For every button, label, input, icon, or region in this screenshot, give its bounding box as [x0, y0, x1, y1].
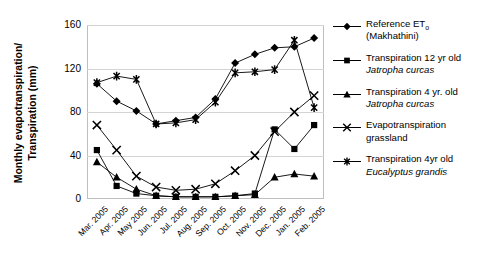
series-marker [290, 170, 298, 177]
series-marker [94, 147, 100, 153]
series-marker [93, 121, 101, 129]
legend-item[interactable]: Transpiration 12 yr oldJatropha curcas [332, 52, 498, 77]
y-axis-title-line1: Monthly evapotranspiration/ [11, 13, 25, 213]
series-marker [311, 103, 317, 112]
series-marker [132, 172, 140, 180]
legend-label-line1: Evapotranspiration [366, 119, 446, 131]
y-axis-title: Monthly evapotranspiration/ Transpiratio… [11, 13, 45, 213]
series-marker [114, 183, 120, 189]
y-axis-tick-label: 160 [41, 20, 81, 30]
legend-label-line1: Transpiration 12 yr old [366, 52, 461, 64]
series-marker [251, 151, 259, 159]
series-marker [291, 36, 297, 45]
series-marker [231, 167, 239, 175]
series-marker [251, 50, 259, 58]
legend-label: Transpiration 4 yr. oldJatropha curcas [366, 86, 458, 111]
y-axis-tick-label: 0 [41, 194, 81, 204]
chart-legend: Reference ETo(Makhathini)Transpiration 1… [332, 18, 498, 187]
legend-label-line2: Eucalyptus grandis [366, 166, 453, 178]
legend-label-line1: Reference ETo [366, 18, 429, 30]
plot-area [87, 25, 324, 199]
legend-item[interactable]: Transpiration 4yr oldEucalyptus grandis [332, 153, 498, 178]
series-marker [93, 158, 101, 165]
x-marker-icon [332, 120, 362, 133]
legend-label-line1: Transpiration 4 yr. old [366, 86, 458, 98]
series-marker [310, 34, 318, 42]
square-marker-icon [332, 53, 362, 66]
series-marker [132, 107, 140, 115]
series-marker [113, 146, 121, 154]
series-line [97, 40, 314, 124]
series-marker [291, 146, 297, 152]
legend-label: Evapotranspirationgrassland [366, 119, 446, 144]
legend-item[interactable]: Reference ETo(Makhathini) [332, 18, 498, 43]
legend-label-line2: grassland [366, 132, 446, 144]
legend-label: Reference ETo(Makhathini) [366, 18, 429, 43]
series-layer [87, 25, 324, 199]
legend-label-line2: Jatropha curcas [366, 64, 461, 76]
y-axis-title-line2: Transpiration (mm) [25, 13, 39, 213]
series-marker [211, 180, 219, 188]
legend-label: Transpiration 12 yr oldJatropha curcas [366, 52, 461, 77]
y-axis-tick-label: 40 [41, 151, 81, 161]
diamond-marker-icon [332, 19, 362, 32]
series-marker [311, 122, 317, 128]
legend-label: Transpiration 4yr oldEucalyptus grandis [366, 153, 453, 178]
series-marker [212, 98, 218, 107]
legend-item[interactable]: Transpiration 4 yr. oldJatropha curcas [332, 86, 498, 111]
triangle-marker-icon [332, 87, 362, 100]
legend-label-line2: Jatropha curcas [366, 98, 458, 110]
series-marker [290, 108, 298, 116]
legend-label-line2: (Makhathini) [366, 30, 429, 42]
series-marker [152, 183, 160, 191]
legend-label-subscript: o [425, 24, 429, 31]
y-axis-tick-label: 80 [41, 107, 81, 117]
series-marker [231, 59, 239, 67]
legend-label-line1: Transpiration 4yr old [366, 153, 453, 165]
series-marker [113, 173, 121, 180]
asterisk-marker-icon [332, 154, 362, 167]
legend-item[interactable]: Evapotranspirationgrassland [332, 119, 498, 144]
y-axis-tick-label: 120 [41, 64, 81, 74]
chart-container: Monthly evapotranspiration/ Transpiratio… [0, 0, 500, 269]
series-marker [132, 185, 140, 192]
series-marker [271, 44, 279, 52]
